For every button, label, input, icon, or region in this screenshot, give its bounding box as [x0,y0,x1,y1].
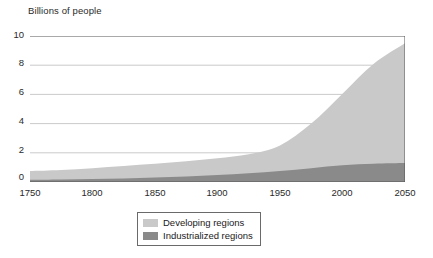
legend-item-developing-regions: Developing regions [143,216,253,229]
chart-legend: Developing regions Industrialized region… [137,212,261,246]
x-axis-tick-label: 1750 [10,188,50,198]
legend-swatch-icon [143,219,158,227]
area-series-developing-regions [30,43,405,182]
chart-plot-area [30,36,405,182]
x-axis-tick-label: 2050 [385,188,425,198]
y-axis-tick-label: 0 [2,172,24,182]
y-axis-tick-label: 4 [2,116,24,126]
x-axis-tick-label: 1850 [135,188,175,198]
x-axis-tick-label: 1800 [72,188,112,198]
y-axis-tick-label: 8 [2,58,24,68]
legend-swatch-icon [143,232,158,240]
y-axis-tick-label: 6 [2,87,24,97]
chart-figure: Billions of people 10 8 6 4 2 0 1750 180… [0,0,433,258]
x-axis-tick-label: 2000 [322,188,362,198]
y-axis-tick-label: 10 [2,30,24,40]
legend-item-label: Developing regions [163,217,244,228]
legend-item-industrialized-regions: Industrialized regions [143,229,253,242]
x-axis-tick-label: 1900 [197,188,237,198]
x-axis-tick-label: 1950 [260,188,300,198]
y-axis-tick-label: 2 [2,145,24,155]
legend-item-label: Industrialized regions [163,230,253,241]
chart-axis-title: Billions of people [28,5,102,16]
chart-plot-svg [30,36,405,182]
